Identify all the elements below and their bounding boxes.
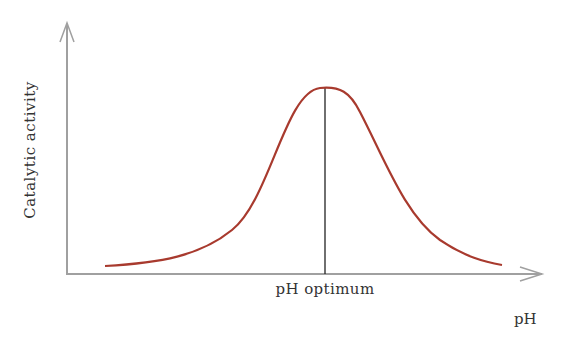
y-axis-label: Catalytic activity [21,81,39,219]
optimum-label: pH optimum [275,280,374,298]
x-axis [66,267,542,281]
y-axis [60,23,74,275]
x-axis-label: pH [514,310,537,328]
activity-curve [105,88,502,266]
